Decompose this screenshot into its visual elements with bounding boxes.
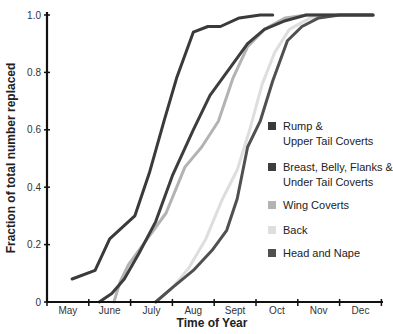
x-tick-label: Aug (184, 305, 202, 316)
y-axis-title: Fraction of total number replaced (4, 63, 18, 254)
y-tick-label: 1.0 (27, 10, 41, 21)
y-tick-label: 0.4 (27, 182, 41, 193)
legend-swatch (268, 163, 276, 171)
legend: Rump &Upper Tail CovertsBreast, Belly, F… (268, 120, 393, 259)
legend-label: Breast, Belly, Flanks & (283, 161, 393, 173)
legend-label: Under Tail Coverts (283, 176, 374, 188)
x-axis-title: Time of Year (177, 316, 248, 330)
legend-label: Rump & (283, 120, 323, 132)
legend-label: Wing Coverts (283, 199, 350, 211)
legend-swatch (268, 249, 276, 257)
legend-swatch (268, 201, 276, 209)
legend-label: Back (283, 224, 308, 236)
y-tick-label: 0 (35, 297, 41, 308)
x-tick-label: June (99, 305, 121, 316)
legend-label: Upper Tail Coverts (283, 135, 374, 147)
legend-swatch (268, 122, 276, 130)
legend-label: Head and Nape (283, 247, 360, 259)
y-tick-label: 0.8 (27, 67, 41, 78)
y-tick-label: 0.6 (27, 124, 41, 135)
x-tick-label: July (143, 305, 161, 316)
x-tick-label: Dec (352, 305, 370, 316)
x-tick-label: Nov (310, 305, 328, 316)
chart: 00.20.40.60.81.0 MayJuneJulyAugSeptOctNo… (0, 0, 393, 334)
x-tick-label: May (58, 305, 77, 316)
x-tick-label: Sept (225, 305, 246, 316)
x-tick-label: Oct (269, 305, 285, 316)
y-tick-label: 0.2 (27, 239, 41, 250)
legend-swatch (268, 226, 276, 234)
